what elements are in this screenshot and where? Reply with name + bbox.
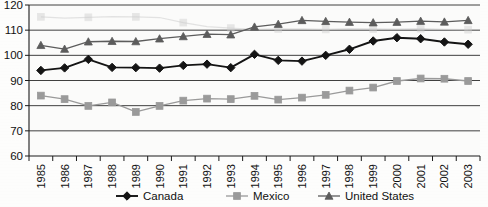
marker-square	[132, 109, 139, 116]
y-tick-label: 110	[5, 24, 23, 36]
x-tick-label: 1988	[106, 164, 118, 188]
x-tick-label: 1991	[177, 164, 189, 188]
marker-square	[465, 26, 472, 33]
x-tick-label: 1987	[82, 164, 94, 188]
marker-diamond	[123, 192, 131, 200]
marker-square	[234, 193, 241, 200]
legend-label: United States	[345, 190, 414, 202]
chart-legend: CanadaMexicoUnited States	[116, 190, 414, 202]
x-tick-label: 1985	[35, 164, 47, 188]
y-tick-label: 100	[4, 49, 23, 61]
marker-square	[156, 103, 163, 110]
legend-item-united-states: United States	[318, 190, 414, 202]
y-axis-ticks: 60708090100110120	[4, 0, 29, 162]
y-tick-label: 80	[10, 100, 23, 112]
marker-square	[441, 75, 448, 82]
legend-item-canada: Canada	[116, 190, 184, 202]
x-tick-label: 2002	[438, 164, 450, 188]
line-chart: 60708090100110120 1985198619871988198919…	[0, 0, 488, 207]
x-tick-label: 1994	[249, 164, 261, 188]
x-tick-label: 1990	[154, 164, 166, 188]
x-tick-label: 1998	[343, 164, 355, 188]
marker-square	[417, 25, 424, 32]
marker-square	[417, 75, 424, 82]
legend-label: Mexico	[253, 190, 289, 202]
y-tick-label: 60	[10, 150, 23, 162]
marker-square	[322, 91, 329, 98]
marker-square	[132, 13, 139, 20]
x-tick-label: 1993	[225, 164, 237, 188]
marker-square	[299, 94, 306, 101]
x-tick-label: 1992	[201, 164, 213, 188]
marker-square	[251, 92, 258, 99]
x-tick-label: 1997	[320, 164, 332, 188]
marker-square	[465, 78, 472, 85]
y-tick-label: 120	[4, 0, 23, 11]
marker-square	[180, 19, 187, 26]
marker-square	[204, 95, 211, 102]
marker-square	[370, 26, 377, 33]
x-tick-label: 2000	[391, 164, 403, 188]
y-tick-label: 90	[10, 75, 23, 87]
marker-square	[85, 103, 92, 110]
x-tick-label: 2003	[462, 164, 474, 188]
x-tick-label: 1996	[296, 164, 308, 188]
marker-square	[370, 84, 377, 91]
x-tick-label: 1989	[130, 164, 142, 188]
x-axis-ticks: 1985198619871988198919901991199219931994…	[29, 156, 480, 188]
legend-label: Canada	[143, 190, 184, 202]
marker-square	[37, 92, 44, 99]
marker-square	[109, 99, 116, 106]
marker-square	[346, 87, 353, 94]
marker-square	[85, 14, 92, 21]
legend-item-mexico: Mexico	[226, 190, 289, 202]
marker-square	[394, 78, 401, 85]
marker-square	[322, 26, 329, 33]
marker-square	[227, 96, 234, 103]
marker-square	[37, 13, 44, 20]
marker-square	[180, 97, 187, 104]
marker-square	[61, 96, 68, 103]
x-tick-label: 2001	[415, 164, 427, 188]
chart-figure: 60708090100110120 1985198619871988198919…	[0, 0, 488, 207]
y-tick-label: 70	[10, 125, 23, 137]
marker-square	[275, 96, 282, 103]
x-tick-label: 1986	[59, 164, 71, 188]
x-tick-label: 1999	[367, 164, 379, 188]
x-tick-label: 1995	[272, 164, 284, 188]
